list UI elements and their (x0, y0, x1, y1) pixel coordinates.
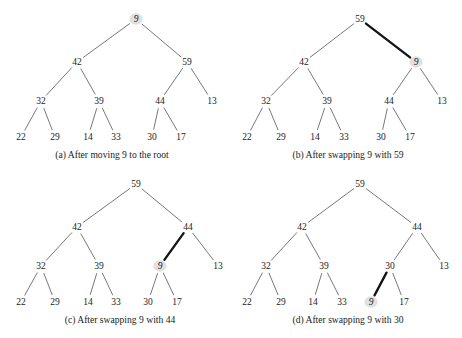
tree-edge-highlighted (375, 273, 387, 296)
tree-panel-a: 9425932394413222914333017(a) After movin… (16, 13, 217, 161)
tree-edge (46, 68, 72, 96)
tree-edge (421, 233, 439, 260)
panel-caption-a: (a) After moving 9 to the root (55, 149, 169, 161)
tree-edge (150, 273, 157, 295)
tree-edge (269, 273, 278, 295)
tree-node-label: 17 (176, 132, 186, 142)
tree-edge (83, 188, 130, 222)
tree-edge (251, 273, 263, 296)
edge-group (25, 23, 208, 130)
tree-edge (310, 24, 354, 58)
tree-node-label: 17 (172, 297, 182, 307)
tree-edge (394, 233, 412, 260)
tree-node-label: 13 (439, 261, 449, 271)
edge-group (251, 188, 440, 295)
tree-node-label: 32 (261, 96, 271, 106)
tree-node-label: 22 (16, 297, 26, 307)
tree-node-label: 33 (337, 297, 347, 307)
tree-node-label: 9 (414, 57, 419, 67)
tree-node-label: 9 (158, 261, 163, 271)
panel-caption-c: (c) After swapping 9 with 44 (65, 314, 176, 326)
tree-edge (306, 234, 321, 260)
tree-edge (308, 188, 354, 222)
tree-edge (193, 233, 214, 260)
tree-edge (393, 68, 411, 95)
tree-node-label: 22 (242, 132, 252, 142)
tree-edge (44, 108, 53, 130)
tree-edge (81, 234, 96, 260)
tree-edge (251, 108, 263, 131)
tree-edge (102, 273, 113, 295)
tree-node-label: 39 (94, 96, 104, 106)
tree-edge (317, 108, 324, 130)
tree-edge (46, 233, 72, 261)
tree-edge-highlighted (164, 233, 183, 260)
tree-node-label: 33 (111, 132, 121, 142)
tree-node-label: 39 (322, 96, 332, 106)
tree-node-label: 44 (412, 222, 422, 232)
tree-edge (142, 24, 182, 57)
tree-node-label: 22 (16, 132, 26, 142)
tree-edge (366, 189, 411, 223)
tree-node-label: 9 (369, 297, 374, 307)
tree-node-label: 33 (339, 132, 349, 142)
tree-edge (308, 68, 323, 94)
tree-edge (25, 273, 38, 296)
tree-node-label: 30 (376, 132, 386, 142)
edge-group (25, 188, 214, 295)
panel-caption-d: (d) After swapping 9 with 30 (292, 314, 403, 326)
tree-edge (25, 108, 38, 131)
tree-edge (315, 273, 322, 295)
tree-node-label: 44 (183, 222, 193, 232)
tree-node-label: 44 (384, 96, 394, 106)
tree-edge (271, 233, 297, 261)
tree-edge (269, 108, 278, 130)
tree-node-label: 32 (36, 261, 46, 271)
node-group: 5942443239913222914333017 (16, 179, 223, 307)
tree-node-label: 30 (385, 261, 395, 271)
tree-node-label: 42 (72, 57, 82, 67)
tree-node-label: 42 (299, 57, 309, 67)
tree-node-label: 14 (308, 297, 318, 307)
tree-node-label: 39 (94, 261, 104, 271)
tree-edge (154, 108, 159, 129)
tree-node-label: 13 (213, 261, 223, 271)
tree-edge (90, 108, 97, 130)
tree-node-label: 17 (399, 297, 409, 307)
tree-edge (164, 68, 182, 95)
heap-sift-down-figure: 9425932394413222914333017(a) After movin… (0, 0, 462, 338)
tree-node-label: 42 (297, 222, 307, 232)
tree-node-label: 59 (182, 57, 192, 67)
tree-node-label: 42 (72, 222, 82, 232)
tree-node-label: 59 (355, 14, 365, 24)
tree-node-label: 14 (83, 297, 93, 307)
edge-group (251, 24, 438, 131)
tree-edge (90, 273, 97, 295)
tree-node-label: 33 (111, 297, 121, 307)
tree-node-label: 59 (131, 179, 141, 189)
tree-panel-c: 5942443239913222914333017(c) After swapp… (16, 179, 223, 326)
tree-edge (420, 68, 438, 95)
tree-node-label: 9 (134, 14, 139, 24)
tree-node-label: 32 (261, 261, 271, 271)
tree-node-label: 30 (143, 297, 153, 307)
tree-edge (142, 189, 182, 222)
tree-edge (191, 68, 208, 94)
tree-node-label: 29 (50, 132, 60, 142)
tree-node-label: 14 (83, 132, 93, 142)
node-group: 5942932394413222914333017 (242, 14, 447, 142)
tree-node-label: 22 (242, 297, 252, 307)
tree-edge (327, 273, 338, 296)
tree-edge (330, 108, 341, 130)
tree-node-label: 29 (276, 297, 286, 307)
tree-edge-highlighted (366, 24, 410, 58)
tree-diagram-canvas: 9425932394413222914333017(a) After movin… (0, 0, 462, 338)
tree-node-label: 13 (437, 96, 447, 106)
tree-node-label: 13 (207, 96, 217, 106)
tree-edge (163, 273, 174, 295)
tree-edge (81, 69, 96, 95)
tree-panel-b: 5942932394413222914333017(b) After swapp… (242, 14, 447, 161)
tree-node-label: 29 (50, 297, 60, 307)
tree-edge (83, 23, 130, 57)
tree-node-label: 44 (155, 96, 165, 106)
